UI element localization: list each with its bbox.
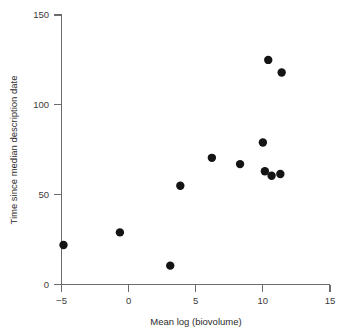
data-point xyxy=(276,170,284,178)
x-tick-label: 15 xyxy=(325,295,336,306)
plot-canvas: 050100150 −5051015 Mean log (biovolume) … xyxy=(0,0,345,334)
data-point xyxy=(264,56,272,64)
data-point xyxy=(59,241,67,249)
data-point xyxy=(277,68,285,76)
data-points-layer xyxy=(59,56,286,270)
data-point xyxy=(166,261,174,269)
y-axis-title: Time since median description date xyxy=(8,75,19,224)
data-point xyxy=(208,154,216,162)
y-axis: 050100150 xyxy=(33,9,61,290)
x-tick-label: 0 xyxy=(126,295,131,306)
data-point xyxy=(176,181,184,189)
scatter-plot-figure: 050100150 −5051015 Mean log (biovolume) … xyxy=(0,0,345,334)
data-point xyxy=(236,160,244,168)
x-tick-label: −5 xyxy=(56,295,67,306)
data-point xyxy=(267,172,275,180)
x-tick-labels: −5051015 xyxy=(56,295,335,306)
x-tick-label: 10 xyxy=(258,295,269,306)
x-axis: −5051015 xyxy=(56,285,335,307)
y-tick-label: 0 xyxy=(44,279,49,290)
x-tick-marks xyxy=(62,285,331,293)
y-tick-label: 150 xyxy=(33,9,49,20)
y-tick-labels: 050100150 xyxy=(33,9,49,290)
data-point xyxy=(116,228,124,236)
y-tick-label: 100 xyxy=(33,99,49,110)
x-axis-title: Mean log (biovolume) xyxy=(150,316,241,327)
y-tick-label: 50 xyxy=(38,189,49,200)
data-point xyxy=(259,138,267,146)
x-tick-label: 5 xyxy=(193,295,198,306)
